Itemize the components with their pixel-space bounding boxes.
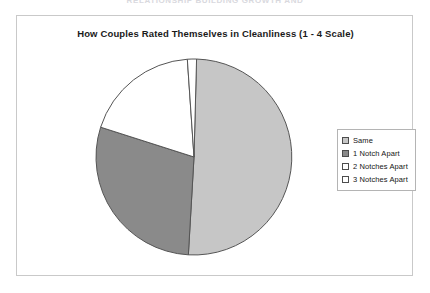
legend-label-2-notches-apart: 2 Notches Apart bbox=[353, 162, 408, 171]
pie-slice-same[interactable] bbox=[188, 59, 291, 255]
legend-item-1-notch-apart[interactable]: 1 Notch Apart bbox=[342, 147, 412, 160]
chart-frame: How Couples Rated Themselves in Cleanlin… bbox=[16, 15, 413, 276]
legend-swatch-2-notches bbox=[342, 163, 349, 170]
pie-slices bbox=[96, 59, 292, 255]
pie-chart bbox=[79, 52, 309, 262]
legend-swatch-1-notch bbox=[342, 150, 349, 157]
legend-item-2-notches-apart[interactable]: 2 Notches Apart bbox=[342, 160, 412, 173]
legend-label-same: Same bbox=[353, 136, 373, 145]
chart-title: How Couples Rated Themselves in Cleanlin… bbox=[17, 28, 414, 39]
top-caption: RELATIONSHIP BUILDING GROWTH AND bbox=[0, 0, 430, 5]
chart-legend: Same 1 Notch Apart 2 Notches Apart 3 Not… bbox=[337, 129, 416, 191]
pie-svg bbox=[79, 52, 309, 262]
legend-label-1-notch-apart: 1 Notch Apart bbox=[353, 149, 400, 158]
legend-swatch-same bbox=[342, 137, 349, 144]
legend-swatch-3-notches bbox=[342, 176, 349, 183]
legend-item-3-notches-apart[interactable]: 3 Notches Apart bbox=[342, 173, 412, 186]
legend-item-same[interactable]: Same bbox=[342, 134, 412, 147]
legend-label-3-notches-apart: 3 Notches Apart bbox=[353, 175, 408, 184]
